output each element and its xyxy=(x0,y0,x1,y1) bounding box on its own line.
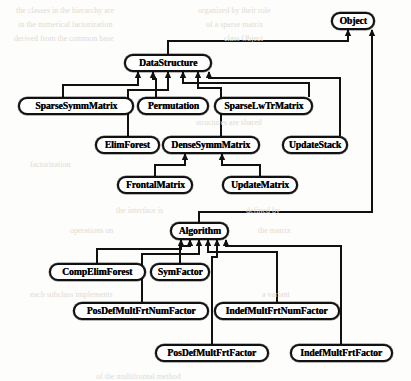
background-text: a variant xyxy=(262,290,290,299)
background-text: defined by xyxy=(246,206,280,215)
arrowhead-icon xyxy=(135,71,141,78)
class-node-label: PosDefMultFrtNumFactor xyxy=(82,306,201,316)
class-node-frontalmatrix[interactable]: FrontalMatrix xyxy=(117,176,193,194)
background-text: the interface is xyxy=(116,206,163,215)
class-node-indefmultfrtfactor[interactable]: IndefMultFrtFactor xyxy=(290,344,393,362)
class-node-datastructure[interactable]: DataStructure xyxy=(124,54,212,72)
arrowhead-icon xyxy=(214,239,220,246)
background-text: of the multifrontal method xyxy=(96,372,181,381)
arrowhead-icon xyxy=(182,153,188,160)
class-node-permutation[interactable]: Permutation xyxy=(137,97,209,115)
inheritance-edge xyxy=(155,154,185,176)
background-text: class Object xyxy=(224,34,263,43)
arrowhead-icon xyxy=(205,239,211,246)
class-node-label: IndefMultFrtNumFactor xyxy=(221,306,333,316)
inheritance-edge xyxy=(212,240,217,344)
class-node-label: DenseSymmMatrix xyxy=(167,140,256,150)
class-node-label: CompElimForest xyxy=(58,267,138,277)
class-node-updatestack[interactable]: UpdateStack xyxy=(282,136,348,154)
arrowhead-icon xyxy=(195,71,201,78)
inheritance-edge xyxy=(97,240,181,263)
background-text: organized by their role xyxy=(198,6,271,15)
class-node-algorithm[interactable]: Algorithm xyxy=(170,222,229,240)
class-node-label: PosDefMultFrtFactor xyxy=(163,348,261,358)
class-node-label: UpdateMatrix xyxy=(226,180,294,190)
class-node-posdefmultfrtnumfactor[interactable]: PosDefMultFrtNumFactor xyxy=(73,302,209,320)
inheritance-edge xyxy=(183,72,309,97)
class-node-object[interactable]: Object xyxy=(331,12,375,30)
class-node-symfactor[interactable]: SymFactor xyxy=(150,263,210,281)
inheritance-edge xyxy=(63,72,138,97)
class-node-densesymmmatrix[interactable]: DenseSymmMatrix xyxy=(162,136,260,154)
inheritance-edge xyxy=(153,72,156,97)
arrowhead-icon xyxy=(196,239,202,246)
class-node-posdefmultfrtfactor[interactable]: PosDefMultFrtFactor xyxy=(155,344,269,362)
class-node-updatematrix[interactable]: UpdateMatrix xyxy=(222,176,298,194)
arrowhead-icon xyxy=(187,239,193,246)
class-node-label: SparseLwTrMatrix xyxy=(219,101,308,111)
class-hierarchy-diagram: the classes in the hierarchy areorganize… xyxy=(0,0,411,381)
arrowhead-icon xyxy=(178,239,184,246)
class-node-label: Algorithm xyxy=(174,226,226,236)
arrowhead-icon xyxy=(150,71,156,78)
background-text: structures are shared xyxy=(196,118,262,127)
arrowhead-icon xyxy=(206,71,212,78)
background-text: factorization xyxy=(30,160,70,169)
arrowhead-icon xyxy=(345,29,351,36)
background-text: in the numerical factorization xyxy=(18,20,112,29)
inheritance-edge xyxy=(180,240,190,263)
background-text: of a sparse matrix xyxy=(206,20,263,29)
class-node-sparselwtrmatrix[interactable]: SparseLwTrMatrix xyxy=(214,97,313,115)
class-node-sparsesymmmatrix[interactable]: SparseSymmMatrix xyxy=(18,97,134,115)
background-text: derived from the common base xyxy=(14,34,114,43)
class-node-label: UpdateStack xyxy=(284,140,346,150)
class-node-indefmultfrtnumfactor[interactable]: IndefMultFrtNumFactor xyxy=(214,302,340,320)
arrowhead-icon xyxy=(165,71,171,78)
class-node-label: Object xyxy=(334,16,371,26)
arrowhead-icon xyxy=(223,239,229,246)
class-node-label: ElimForest xyxy=(100,140,155,150)
class-node-label: Permutation xyxy=(143,101,204,111)
class-node-label: IndefMultFrtFactor xyxy=(296,348,387,358)
class-node-label: SparseSymmMatrix xyxy=(30,101,122,111)
background-text: operations on xyxy=(70,226,113,235)
inheritance-edge xyxy=(222,154,260,176)
class-node-compelimforest[interactable]: CompElimForest xyxy=(49,263,146,281)
class-node-label: DataStructure xyxy=(134,58,202,68)
arrowhead-icon xyxy=(219,153,225,160)
class-node-elimforest[interactable]: ElimForest xyxy=(95,136,160,154)
background-text: the classes in the hierarchy are xyxy=(16,6,114,15)
arrowhead-icon xyxy=(369,29,375,36)
background-text: the matrix xyxy=(258,226,291,235)
background-text: each subclass implements xyxy=(30,290,113,299)
class-node-label: SymFactor xyxy=(153,267,208,277)
class-node-label: FrontalMatrix xyxy=(121,180,190,190)
arrowhead-icon xyxy=(180,71,186,78)
